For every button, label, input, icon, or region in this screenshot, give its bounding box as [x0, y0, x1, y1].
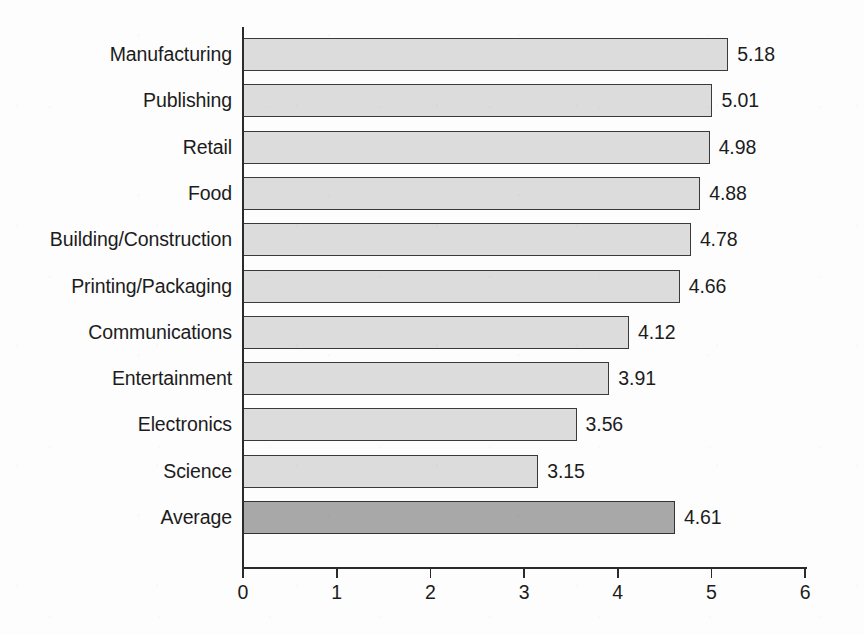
bar-value-label: 4.78 — [700, 223, 738, 256]
bar — [243, 316, 629, 349]
bar — [243, 131, 710, 164]
x-axis-tick — [804, 569, 806, 578]
x-axis-tick-label: 5 — [692, 581, 732, 604]
category-label: Food — [188, 177, 232, 210]
bar-row: Electronics3.56 — [0, 408, 864, 441]
category-label: Communications — [88, 316, 232, 349]
bar-chart: Manufacturing5.18Publishing5.01Retail4.9… — [0, 0, 864, 635]
bar — [243, 38, 728, 71]
bar-value-label: 3.91 — [618, 362, 656, 395]
x-axis-tick-label: 6 — [785, 581, 825, 604]
bar-value-label: 4.12 — [638, 316, 676, 349]
bar — [243, 84, 712, 117]
bar — [243, 408, 577, 441]
category-label: Printing/Packaging — [71, 270, 232, 303]
bar — [243, 455, 538, 488]
x-axis-tick — [523, 569, 525, 578]
bar-row: Entertainment3.91 — [0, 362, 864, 395]
bar-row: Science3.15 — [0, 455, 864, 488]
category-label: Entertainment — [112, 362, 232, 395]
bar-rows-container: Manufacturing5.18Publishing5.01Retail4.9… — [0, 0, 864, 635]
x-axis-tick — [336, 569, 338, 578]
bar-value-label: 5.01 — [721, 84, 759, 117]
category-label: Publishing — [143, 84, 232, 117]
bar-average — [243, 501, 675, 534]
x-axis-tick-label: 1 — [317, 581, 357, 604]
category-label: Manufacturing — [110, 38, 232, 71]
bar-row: Retail4.98 — [0, 131, 864, 164]
x-axis-tick — [430, 569, 432, 578]
x-axis-tick-label: 3 — [504, 581, 544, 604]
bar — [243, 362, 609, 395]
x-axis-tick-label: 2 — [410, 581, 450, 604]
bar-value-label: 4.98 — [719, 131, 757, 164]
bar-row: Communications4.12 — [0, 316, 864, 349]
category-label: Retail — [183, 131, 232, 164]
bar-row: Publishing5.01 — [0, 84, 864, 117]
bar-value-label: 4.88 — [709, 177, 747, 210]
category-label: Average — [160, 501, 232, 534]
bar-row: Manufacturing5.18 — [0, 38, 864, 71]
x-axis-tick-label: 0 — [223, 581, 263, 604]
bar-value-label: 3.56 — [586, 408, 624, 441]
bar-value-label: 4.66 — [689, 270, 727, 303]
bar-value-label: 5.18 — [737, 38, 775, 71]
bar-row: Food4.88 — [0, 177, 864, 210]
bar-row: Average4.61 — [0, 501, 864, 534]
bar — [243, 177, 700, 210]
category-label: Electronics — [138, 408, 232, 441]
bar-value-label: 3.15 — [547, 455, 585, 488]
y-axis-line — [242, 27, 244, 569]
bar — [243, 270, 680, 303]
category-label: Building/Construction — [50, 223, 232, 256]
x-axis-tick — [242, 569, 244, 578]
bar-value-label: 4.61 — [684, 501, 722, 534]
bar-row: Printing/Packaging4.66 — [0, 270, 864, 303]
bar-row: Building/Construction4.78 — [0, 223, 864, 256]
bar — [243, 223, 691, 256]
category-label: Science — [163, 455, 232, 488]
x-axis-tick — [617, 569, 619, 578]
x-axis-tick — [711, 569, 713, 578]
x-axis-tick-label: 4 — [598, 581, 638, 604]
